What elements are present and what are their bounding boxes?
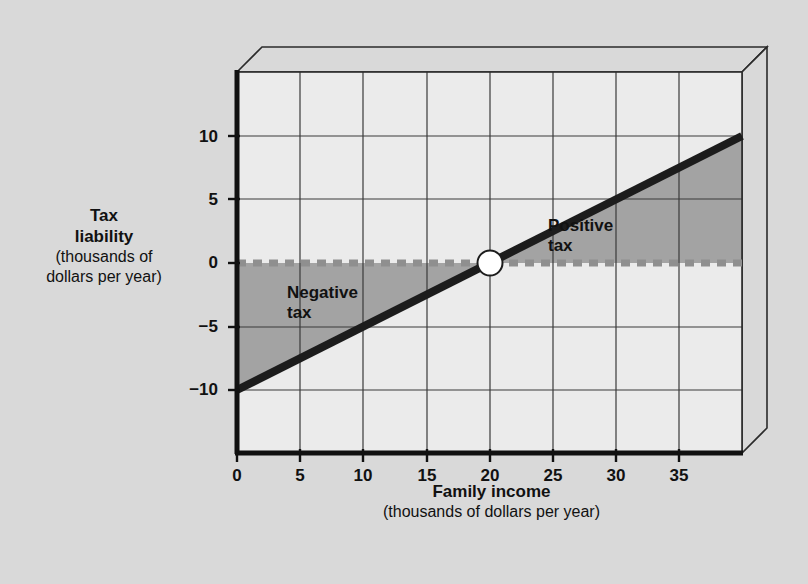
y-axis-title-line1: Tax (14, 206, 194, 227)
y-axis-title-line3: (thousands of (14, 247, 194, 267)
positive-tax-annotation-line1: Positive (548, 216, 613, 236)
positive-tax-annotation-line2: tax (548, 236, 613, 256)
frame-right-face (742, 47, 767, 453)
x-axis-title: Family income (thousands of dollars per … (239, 481, 744, 522)
y-axis-title: Tax liability (thousands of dollars per … (14, 206, 194, 287)
x-axis-title-line2: (thousands of dollars per year) (239, 502, 744, 522)
frame-top-face (237, 47, 767, 72)
y-axis-title-line4: dollars per year) (14, 267, 194, 287)
y-tick-label-minus10: −10 (172, 380, 218, 400)
negative-tax-annotation-line2: tax (287, 303, 358, 323)
negative-tax-annotation: Negative tax (287, 283, 358, 322)
negative-tax-annotation-line1: Negative (287, 283, 358, 303)
y-tick-label-minus5: −5 (172, 317, 218, 337)
break-even-point-marker (478, 251, 503, 276)
x-axis-title-line1: Family income (239, 481, 744, 502)
positive-tax-annotation: Positive tax (548, 216, 613, 255)
y-tick-label-10: 10 (172, 127, 218, 147)
y-axis-title-line2: liability (14, 227, 194, 248)
